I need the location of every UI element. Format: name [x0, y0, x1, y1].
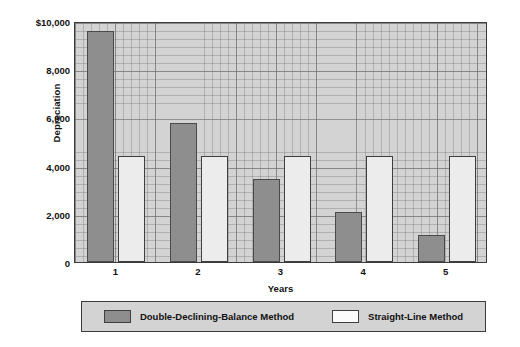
y-axis-tick-label: 8,000 [24, 65, 70, 76]
legend-label: Double-Declining-Balance Method [140, 311, 294, 322]
bar-ddb-year-2 [170, 123, 197, 262]
x-axis-title: Years [74, 283, 487, 294]
x-axis-tick-label: 4 [360, 266, 365, 277]
bar-ddb-year-4 [335, 212, 362, 262]
legend-label: Straight-Line Method [368, 311, 463, 322]
legend-swatch-icon [104, 310, 131, 323]
y-axis-tick-label: 4,000 [24, 161, 70, 172]
legend-entry-1: Double-Declining-Balance Method [104, 310, 294, 323]
bar-straight-line-year-4 [366, 156, 393, 262]
bar-ddb-year-3 [253, 179, 280, 262]
y-axis-tick-label: 6,000 [24, 113, 70, 124]
bar-straight-line-year-2 [201, 156, 228, 262]
y-axis-tick-labels: 02,0004,0006,0008,000$10,000 [24, 22, 70, 263]
chart-legend: Double-Declining-Balance MethodStraight-… [81, 301, 486, 332]
x-axis-tick-labels: 12345 [74, 266, 487, 282]
x-axis-tick-label: 1 [113, 266, 118, 277]
bar-straight-line-year-5 [449, 156, 476, 262]
y-axis-tick-label: $10,000 [24, 17, 70, 28]
bar-ddb-year-5 [418, 235, 445, 262]
legend-swatch-icon [332, 310, 359, 323]
plot-area [74, 22, 487, 263]
depreciation-bar-chart: Depreciation 02,0004,0006,0008,000$10,00… [0, 0, 520, 347]
bar-ddb-year-1 [87, 31, 114, 262]
y-axis-tick-label: 0 [24, 258, 70, 269]
y-axis-tick-label: 2,000 [24, 209, 70, 220]
legend-entry-2: Straight-Line Method [332, 310, 463, 323]
x-axis-tick-label: 5 [443, 266, 448, 277]
x-axis-tick-label: 2 [195, 266, 200, 277]
x-axis-tick-label: 3 [278, 266, 283, 277]
bar-straight-line-year-3 [284, 156, 311, 262]
bar-straight-line-year-1 [118, 156, 145, 262]
